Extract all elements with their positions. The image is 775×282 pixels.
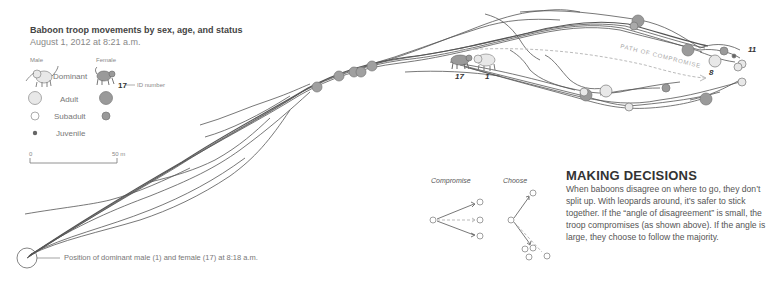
scale-bar <box>30 158 117 163</box>
dominant-male-map-icon <box>474 54 495 71</box>
legend-adult-label: Adult <box>60 95 78 104</box>
legend-subadult-label: Subadult <box>54 112 86 121</box>
legend-female-subadult-icon <box>102 112 110 120</box>
legend-female-baboon-icon <box>96 67 116 85</box>
id-label-17: 17 <box>455 72 464 81</box>
path-of-compromise <box>460 49 705 78</box>
id-label-1: 1 <box>485 72 489 81</box>
decisions-heading: MAKING DECISIONS <box>566 168 697 183</box>
legend-male-adult-icon <box>29 92 42 105</box>
legend-juvenile-icon <box>33 131 37 135</box>
start-annotation: Position of dominant male (1) and female… <box>64 253 258 262</box>
choose-label: Choose <box>503 177 527 184</box>
legend-female-header: Female <box>96 57 116 63</box>
scale-start-label: 0 <box>29 151 32 157</box>
chart-title: Baboon troop movements by sex, age, and … <box>30 25 243 35</box>
decisions-body: When baboons disagree on where to go, th… <box>566 183 775 243</box>
legend-juvenile-label: Juvenile <box>56 129 85 138</box>
legend-male-header: Male <box>30 57 43 63</box>
chart-subtitle: August 1, 2012 at 8:21 a.m. <box>30 37 141 47</box>
legend-id-example: 17 <box>118 81 127 90</box>
compromise-label: Compromise <box>431 177 471 184</box>
legend-female-adult-icon <box>100 92 113 105</box>
legend-dominant-label: Dominant <box>53 72 87 81</box>
scale-end-label: 50 m <box>112 151 125 157</box>
legend-male-subadult-icon <box>31 112 39 120</box>
legend-id-label: ID number <box>137 82 165 88</box>
id-label-11: 11 <box>748 45 756 54</box>
compromise-diagram <box>430 199 483 239</box>
id-label-8: 8 <box>709 68 713 77</box>
choose-diagram <box>508 190 550 260</box>
